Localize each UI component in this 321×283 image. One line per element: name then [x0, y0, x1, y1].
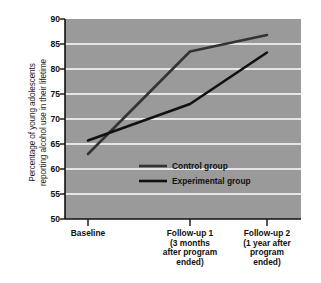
- x-tick-label-followup-2: Follow-up 2 (1 year after program ended): [222, 229, 312, 267]
- x-tick-marks: [88, 219, 267, 226]
- legend-label-control-group: Control group: [172, 161, 228, 171]
- line-chart: Percentage of young adolescents reportin…: [0, 0, 321, 283]
- legend-label-experimental-group: Experimental group: [172, 176, 251, 186]
- x-tick-label-baseline: Baseline: [48, 229, 128, 239]
- x-tick-label-followup-2-sub-3: ended): [222, 258, 312, 268]
- x-tick-label-baseline-main: Baseline: [48, 229, 128, 239]
